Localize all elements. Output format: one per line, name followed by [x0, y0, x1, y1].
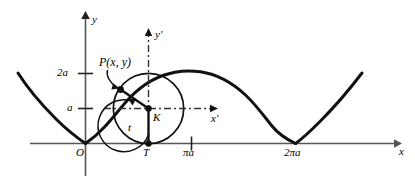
angle-t-arrowhead — [128, 99, 136, 106]
x-axis-label: x — [399, 146, 404, 157]
x-prime-axis-label: x′ — [211, 113, 218, 124]
tick-label-2pi-a: 2πa — [284, 147, 301, 158]
point-P-leader-line — [107, 70, 116, 87]
point-P-leader — [107, 70, 119, 90]
tick-label-pi-a: πa — [183, 147, 194, 158]
y-prime-axis-label: y′ — [155, 29, 162, 40]
tick-label-a: a — [67, 102, 73, 113]
tick-label-2a: 2a — [57, 67, 68, 78]
y-prime-axis — [145, 28, 152, 112]
origin-label: O — [76, 147, 84, 158]
cycloid-figure: y x y′ x′ 2a a O T πa 2πa K t P(x, y) — [0, 0, 415, 176]
cycloid-arch-right — [296, 73, 363, 144]
figure-canvas — [0, 0, 415, 176]
point-K-marker — [145, 105, 151, 111]
point-P-label: P(x, y) — [99, 56, 131, 68]
point-T-label: T — [143, 147, 149, 158]
y-axis-label: y — [92, 14, 97, 25]
angle-t-label: t — [128, 122, 131, 133]
cycloid-arch-left — [18, 73, 86, 144]
center-K-label: K — [153, 112, 160, 123]
cycloid-arch-main — [86, 71, 296, 144]
y-prime-axis-arrowhead — [145, 28, 152, 36]
point-P-marker — [117, 86, 124, 93]
y-axis-arrowhead — [81, 11, 90, 19]
